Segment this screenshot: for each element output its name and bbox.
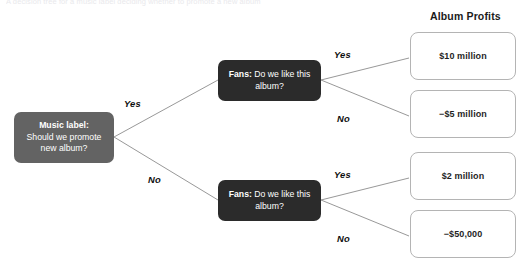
outcome-box-2[interactable]: −$5 million	[410, 90, 516, 138]
link-bottom-yes	[321, 178, 409, 200]
node-music-label-lead: Music label:	[39, 120, 89, 130]
outcome-box-1[interactable]: $10 million	[410, 32, 516, 80]
node-fans-bottom-lead: Fans:	[229, 189, 252, 199]
outcome-box-3[interactable]: $2 million	[410, 152, 516, 200]
edge-label-root-yes: Yes	[124, 98, 141, 109]
album-profits-heading: Album Profits	[430, 10, 501, 22]
outcome-value-3: $2 million	[442, 171, 485, 181]
decision-tree-diagram: A decision tree for a music label decidi…	[0, 0, 531, 270]
edge-label-bottom-yes: Yes	[334, 169, 351, 180]
edge-label-bottom-no: No	[337, 233, 350, 244]
outcome-value-1: $10 million	[439, 51, 487, 61]
edge-label-root-no: No	[148, 174, 161, 185]
outcome-box-4[interactable]: −$50,000	[410, 210, 516, 258]
node-fans-top-lead: Fans:	[229, 69, 252, 79]
node-fans-bottom[interactable]: Fans: Do we like this album?	[218, 180, 321, 221]
outcome-value-4: −$50,000	[444, 229, 483, 239]
node-music-label[interactable]: Music label: Should we promote new album…	[14, 112, 114, 163]
node-fans-bottom-question: Do we like this album?	[254, 189, 310, 210]
link-top-yes	[321, 58, 409, 80]
node-music-label-question: Should we promote new album?	[27, 132, 102, 153]
link-top-no	[321, 80, 409, 116]
edge-label-top-yes: Yes	[334, 49, 351, 60]
link-bottom-no	[321, 200, 409, 236]
edge-label-top-no: No	[337, 113, 350, 124]
outcome-value-2: −$5 million	[439, 109, 487, 119]
link-root-no	[114, 137, 218, 200]
node-fans-top[interactable]: Fans: Do we like this album?	[218, 60, 321, 101]
node-fans-top-question: Do we like this album?	[254, 69, 310, 90]
